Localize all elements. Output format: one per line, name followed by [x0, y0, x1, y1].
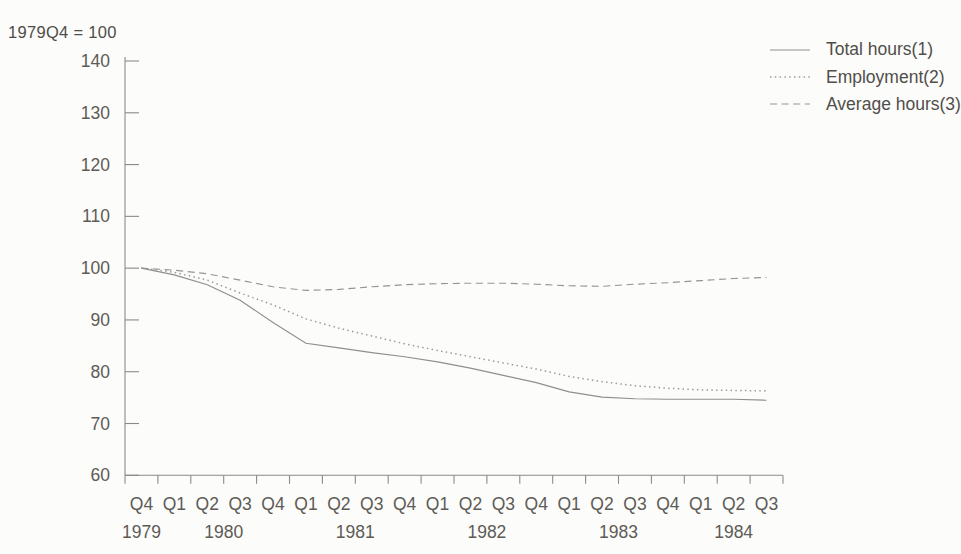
- x-quarter-label: Q3: [755, 494, 778, 514]
- chart-legend: Total hours(1) Employment(2) Average hou…: [770, 36, 961, 118]
- legend-label: Average hours(3): [826, 94, 961, 115]
- x-quarter-label: Q3: [360, 494, 383, 514]
- legend-label: Total hours(1): [826, 39, 933, 60]
- x-quarter-label: Q1: [294, 494, 317, 514]
- y-tick-label: 120: [81, 155, 110, 175]
- x-year-label: 1981: [336, 522, 375, 542]
- series-line-average-hours-3: [141, 268, 766, 290]
- x-quarter-label: Q3: [492, 494, 515, 514]
- x-year-label: 1979: [122, 522, 161, 542]
- x-quarter-label: Q4: [130, 494, 154, 514]
- y-tick-label: 90: [91, 310, 111, 330]
- series-line-total-hours-1: [141, 268, 766, 400]
- legend-item-average-hours: Average hours(3): [770, 91, 961, 118]
- x-year-label: 1980: [204, 522, 243, 542]
- legend-label: Employment(2): [826, 67, 945, 88]
- chart-page: 60708090100110120130140Q4Q1Q2Q3Q4Q1Q2Q3Q…: [0, 0, 961, 554]
- x-year-label: 1983: [599, 522, 638, 542]
- x-quarter-label: Q2: [196, 494, 219, 514]
- legend-item-employment: Employment(2): [770, 63, 961, 90]
- x-quarter-label: Q4: [656, 494, 680, 514]
- y-tick-label: 60: [91, 465, 111, 485]
- dotted-line-icon: [770, 74, 810, 80]
- y-tick-label: 140: [81, 51, 110, 71]
- x-quarter-label: Q3: [228, 494, 251, 514]
- unit-note-label: 1979Q4 = 100: [8, 23, 117, 42]
- x-year-label: 1982: [467, 522, 506, 542]
- x-quarter-label: Q1: [163, 494, 186, 514]
- x-quarter-label: Q4: [525, 494, 549, 514]
- x-quarter-label: Q2: [327, 494, 350, 514]
- x-quarter-label: Q2: [722, 494, 745, 514]
- x-quarter-label: Q1: [689, 494, 712, 514]
- dashed-line-icon: [770, 101, 810, 107]
- y-tick-label: 70: [91, 414, 111, 434]
- x-year-label: 1984: [714, 522, 753, 542]
- x-quarter-label: Q2: [590, 494, 613, 514]
- x-quarter-label: Q4: [393, 494, 417, 514]
- legend-item-total-hours: Total hours(1): [770, 36, 961, 63]
- x-quarter-label: Q1: [426, 494, 449, 514]
- x-quarter-label: Q3: [623, 494, 646, 514]
- x-quarter-label: Q2: [459, 494, 482, 514]
- y-tick-label: 110: [82, 206, 110, 226]
- x-quarter-label: Q1: [557, 494, 580, 514]
- series-line-employment-2: [141, 268, 766, 391]
- y-tick-label: 80: [91, 362, 111, 382]
- solid-line-icon: [770, 47, 810, 53]
- x-quarter-label: Q4: [261, 494, 285, 514]
- y-tick-label: 100: [81, 258, 110, 278]
- y-tick-label: 130: [81, 103, 110, 123]
